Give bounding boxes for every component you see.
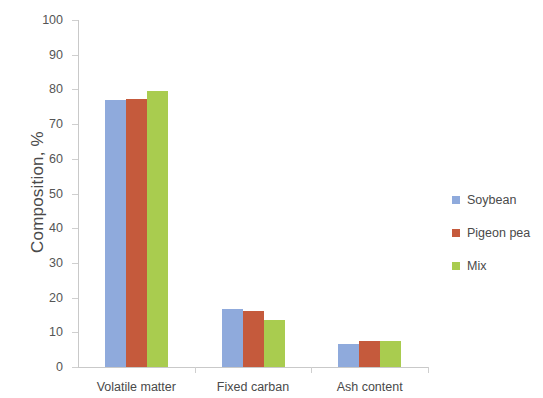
bar bbox=[380, 341, 401, 367]
y-axis-tick-label: 100 bbox=[42, 13, 63, 27]
y-axis-tick: 80 bbox=[72, 89, 78, 90]
legend-swatch-icon bbox=[452, 262, 460, 270]
y-axis-tick-label: 60 bbox=[49, 152, 63, 166]
y-axis-tick: 20 bbox=[72, 298, 78, 299]
y-axis-tick-label: 20 bbox=[49, 291, 63, 305]
y-axis-tick: 40 bbox=[72, 228, 78, 229]
legend-item[interactable]: Soybean bbox=[452, 183, 530, 216]
bar bbox=[126, 99, 147, 367]
bar bbox=[243, 311, 264, 367]
y-axis-tick: 60 bbox=[72, 159, 78, 160]
y-axis-tick: 70 bbox=[72, 124, 78, 125]
plot-area: 1009080706050403020100 Volatile matterFi… bbox=[78, 20, 428, 367]
x-axis-tick bbox=[311, 367, 312, 373]
legend-item-label: Pigeon pea bbox=[467, 226, 530, 240]
y-axis-tick-label: 70 bbox=[49, 117, 63, 131]
bar bbox=[105, 100, 126, 367]
y-axis-tick-label: 10 bbox=[49, 325, 63, 339]
y-axis-tick-label: 90 bbox=[49, 48, 63, 62]
y-axis-tick-label: 80 bbox=[49, 82, 63, 96]
bar bbox=[338, 344, 359, 367]
x-axis-tick bbox=[195, 367, 196, 373]
x-axis-line bbox=[78, 367, 428, 368]
bar bbox=[147, 91, 168, 367]
y-axis-tick-label: 30 bbox=[49, 256, 63, 270]
x-axis-tick bbox=[428, 367, 429, 373]
y-axis-tick-label: 40 bbox=[49, 221, 63, 235]
x-axis-category-label: Fixed carban bbox=[217, 380, 289, 394]
y-axis-tick-label: 50 bbox=[49, 187, 63, 201]
y-axis-tick: 50 bbox=[72, 194, 78, 195]
x-axis-category-label: Volatile matter bbox=[97, 380, 176, 394]
legend: SoybeanPigeon peaMix bbox=[452, 183, 530, 282]
legend-item-label: Soybean bbox=[467, 193, 516, 207]
legend-item[interactable]: Pigeon pea bbox=[452, 216, 530, 249]
bar-chart: Composition, % 1009080706050403020100 Vo… bbox=[0, 0, 543, 398]
legend-item-label: Mix bbox=[467, 259, 486, 273]
y-axis-title: Composition, % bbox=[28, 82, 48, 302]
y-axis-tick: 10 bbox=[72, 332, 78, 333]
legend-swatch-icon bbox=[452, 229, 460, 237]
bar bbox=[359, 341, 380, 367]
x-axis-category-label: Ash content bbox=[337, 380, 403, 394]
y-axis-tick: 30 bbox=[72, 263, 78, 264]
bar bbox=[264, 320, 285, 367]
y-axis-tick: 90 bbox=[72, 55, 78, 56]
bar bbox=[222, 309, 243, 367]
legend-item[interactable]: Mix bbox=[452, 249, 530, 282]
legend-swatch-icon bbox=[452, 196, 460, 204]
y-axis-tick-label: 0 bbox=[56, 360, 63, 374]
y-axis-tick: 100 bbox=[72, 20, 78, 21]
y-axis-tick: 0 bbox=[72, 367, 78, 368]
y-axis-line bbox=[78, 20, 79, 367]
